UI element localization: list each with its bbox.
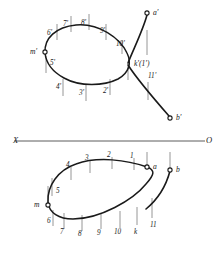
point-marker-b-prime <box>168 116 172 120</box>
curve-lower-tail-to-b <box>146 171 170 209</box>
upper_view-point-label-4p: 4' <box>56 84 61 91</box>
lower_view-label-b: b <box>176 166 180 174</box>
curves-layer <box>45 15 170 219</box>
lower_view-point-label-k: k <box>134 229 137 236</box>
upper_view-label-a-prime: a' <box>153 9 158 17</box>
upper_view-point-label-3p: 3' <box>79 90 84 97</box>
lower_view-point-label-10: 10 <box>114 229 121 236</box>
descriptive-geometry-figure: X O 2'3'4'5'6'7'8'9'10'11'12345678910k11… <box>0 0 217 256</box>
lower_view-point-label-9: 9 <box>97 230 101 237</box>
point-marker-b <box>168 168 172 172</box>
lower_view-point-label-3: 3 <box>85 155 89 162</box>
point-marker-a-prime <box>145 11 149 15</box>
lower_view-point-label-8: 8 <box>78 231 82 238</box>
axis-label-x: X <box>13 136 18 145</box>
upper_view-label-b-prime: b' <box>176 114 181 122</box>
upper_view-point-label-5p: 5' <box>50 60 55 67</box>
point-marker-a <box>145 165 149 169</box>
lower_view-label-a: a <box>153 163 157 171</box>
axis-label-o: O <box>206 136 212 145</box>
lower_view-point-label-6: 6 <box>47 218 51 225</box>
upper_view-point-label-7p: 7' <box>63 21 68 28</box>
upper_view-label-m-prime: m' <box>30 48 37 56</box>
curve-upper-loop <box>45 25 129 85</box>
upper_view-point-label-8p: 8' <box>81 20 86 27</box>
point-marker-m-prime <box>43 50 47 54</box>
upper_view-point-label-11p: 11' <box>148 73 156 80</box>
curve-upper-tail-to-a-prime <box>128 15 147 63</box>
lower_view-point-label-5: 5 <box>56 188 60 195</box>
lower_view-label-m: m <box>34 201 39 209</box>
upper_view-point-label-2p: 2' <box>103 88 108 95</box>
lower_view-point-label-11: 11 <box>150 222 157 229</box>
lower_view-point-label-4: 4 <box>66 162 70 169</box>
figure-canvas <box>0 0 217 256</box>
lower_view-point-label-7: 7 <box>60 229 64 236</box>
lower_view-point-label-2: 2 <box>107 152 111 159</box>
upper_view-point-label-10p: 10' <box>116 41 125 48</box>
upper_view-point-label-9p: 9' <box>100 28 105 35</box>
point-marker-m <box>46 203 50 207</box>
upper_view-label-k-prime: k'(1') <box>134 60 149 68</box>
lower_view-point-label-1: 1 <box>130 153 134 160</box>
upper_view-point-label-6p: 6' <box>47 30 52 37</box>
point-markers-layer <box>43 11 172 207</box>
tick-marks-layer <box>46 14 170 231</box>
